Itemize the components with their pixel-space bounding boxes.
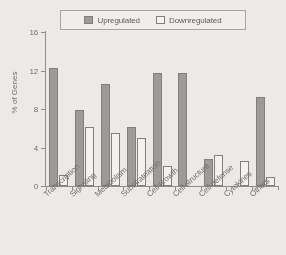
x-axis-tick-labels: TranscriptionSignalingMetabolismSubstrat… bbox=[0, 0, 286, 255]
bar-chart-figure: Upregulated Downregulated 0481216 % of G… bbox=[0, 0, 286, 255]
x-tick-label: Others bbox=[248, 176, 271, 198]
